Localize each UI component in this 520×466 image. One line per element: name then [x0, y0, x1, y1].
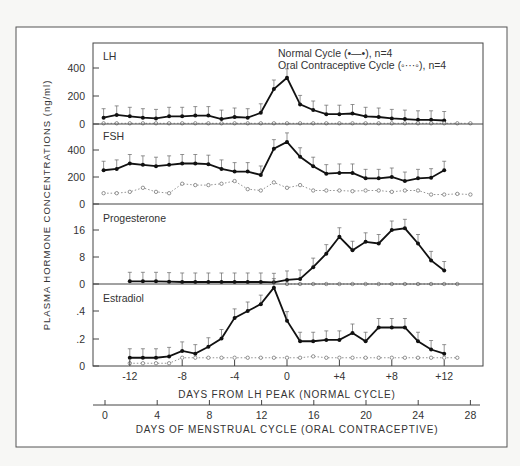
data-point [154, 190, 157, 193]
data-point [141, 116, 145, 120]
panel-label: FSH [103, 130, 124, 142]
data-point [154, 356, 158, 360]
data-point [246, 356, 249, 359]
data-point [259, 111, 263, 115]
data-point [377, 115, 381, 119]
y-tick-label: 200 [67, 90, 85, 102]
data-point [180, 349, 184, 353]
y-axis-label: PLASMA HORMONE CONCENTRATIONS (ng/ml) [41, 80, 52, 331]
data-point [325, 189, 328, 192]
data-point [128, 356, 132, 360]
data-point [233, 179, 236, 182]
x2-tick-label: 20 [360, 409, 372, 421]
y-tick-label: 0 [79, 360, 85, 372]
data-point [311, 164, 315, 168]
data-point [115, 192, 118, 195]
data-point [102, 192, 105, 195]
data-point [416, 356, 419, 359]
data-point [416, 339, 420, 343]
data-point [429, 193, 432, 196]
data-point [259, 189, 262, 192]
data-point [443, 193, 446, 196]
y-tick-label: 8 [79, 251, 85, 263]
data-point [246, 280, 250, 284]
x2-tick-label: 4 [154, 409, 160, 421]
data-point [377, 242, 381, 246]
data-point [325, 356, 328, 359]
y-tick-label: 16 [73, 224, 85, 236]
data-point [324, 172, 328, 176]
data-point [390, 116, 394, 120]
data-point [337, 338, 341, 342]
data-point [377, 176, 381, 180]
y-tick-label: 200 [67, 171, 85, 183]
data-point [403, 189, 406, 192]
data-point [390, 356, 393, 359]
data-point [311, 265, 315, 269]
x-tick-label: 0 [284, 370, 290, 382]
data-point [220, 280, 224, 284]
data-point [272, 356, 275, 359]
data-point [141, 186, 144, 189]
data-point [141, 279, 145, 283]
x-tick-label: -8 [178, 370, 187, 382]
data-point [324, 252, 328, 256]
data-point [233, 356, 236, 359]
data-point [194, 356, 197, 359]
data-point [351, 171, 355, 175]
data-point [220, 356, 223, 359]
data-point [167, 192, 170, 195]
data-point [390, 326, 394, 330]
data-point [259, 280, 263, 284]
data-point [220, 167, 224, 171]
data-point [128, 279, 132, 283]
data-point [324, 112, 328, 116]
data-point [206, 162, 210, 166]
data-point [141, 163, 145, 167]
data-point [298, 356, 301, 359]
data-point [141, 356, 145, 360]
data-point [351, 331, 355, 335]
data-point [298, 339, 302, 343]
data-point [167, 280, 171, 284]
data-point [102, 116, 106, 120]
data-point [298, 277, 302, 281]
data-point [390, 190, 393, 193]
data-point [429, 118, 433, 122]
data-point [403, 226, 407, 230]
x-tick-label: -4 [230, 370, 239, 382]
data-point [416, 242, 420, 246]
data-point [115, 167, 119, 171]
x2-tick-label: 28 [465, 409, 477, 421]
data-point [220, 182, 223, 185]
data-point [429, 356, 432, 359]
data-point [403, 117, 407, 121]
data-point [206, 345, 210, 349]
data-point [285, 76, 289, 80]
data-point [141, 362, 144, 365]
data-point [259, 173, 263, 177]
data-point [154, 116, 158, 120]
data-point [298, 155, 302, 159]
outer-frame [16, 27, 507, 447]
data-point [416, 189, 419, 192]
data-point [298, 183, 301, 186]
data-point [180, 114, 184, 118]
data-point [442, 352, 446, 356]
x-axis-secondary-label: DAYS OF MENSTRUAL CYCLE (ORAL CONTRACEPT… [136, 424, 439, 435]
x2-tick-label: 16 [308, 409, 320, 421]
data-point [285, 186, 288, 189]
data-point [377, 189, 380, 192]
data-point [377, 356, 380, 359]
y-tick-label: 0 [79, 278, 85, 290]
data-point [154, 164, 158, 168]
data-point [298, 102, 302, 106]
x-axis-primary-label: DAYS FROM LH PEAK (NORMAL CYCLE) [178, 389, 395, 400]
data-point [193, 280, 197, 284]
data-point [416, 176, 420, 180]
x-tick-label: +8 [386, 370, 398, 382]
data-point [259, 302, 263, 306]
data-point [311, 339, 315, 343]
legend-normal: Normal Cycle (•—•), n=4 [278, 47, 393, 59]
data-point [246, 116, 250, 120]
